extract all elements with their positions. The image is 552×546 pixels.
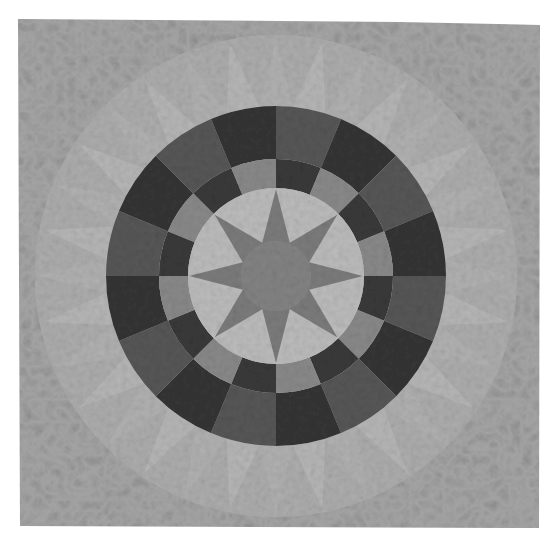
- quilt-photograph: [0, 0, 552, 546]
- star-center: [241, 241, 311, 311]
- quilt-body: [0, 0, 552, 546]
